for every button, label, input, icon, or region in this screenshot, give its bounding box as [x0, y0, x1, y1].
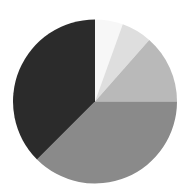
pie-chart	[0, 0, 194, 195]
pie-chart-svg	[0, 0, 194, 195]
pie-slices	[13, 20, 177, 184]
